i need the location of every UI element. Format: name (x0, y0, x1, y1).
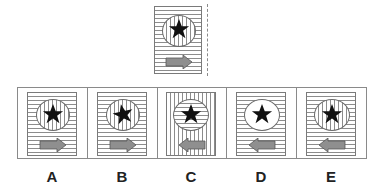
option-b-label[interactable]: B (112, 168, 132, 185)
arrow-right-icon (39, 138, 67, 152)
arrow-left-icon (318, 138, 346, 152)
option-e-label[interactable]: E (321, 168, 341, 185)
star-icon (110, 101, 136, 127)
star-icon (251, 103, 273, 125)
star-icon (321, 103, 343, 125)
option-d-figure[interactable] (236, 92, 286, 156)
star-icon (168, 18, 190, 40)
divider (157, 87, 158, 159)
arrow-right-icon (165, 55, 193, 69)
star-icon (180, 103, 202, 125)
option-c-label[interactable]: C (181, 168, 201, 185)
star-icon (42, 103, 64, 125)
option-a-label[interactable]: A (42, 168, 62, 185)
option-e-figure[interactable] (306, 92, 356, 156)
arrow-left-icon (248, 138, 276, 152)
divider (226, 87, 227, 159)
arrow-left-icon (178, 138, 206, 152)
option-c-figure[interactable] (166, 92, 216, 156)
divider (87, 87, 88, 159)
mirror-line (207, 4, 208, 76)
option-d-label[interactable]: D (251, 168, 271, 185)
option-a-figure[interactable] (27, 92, 77, 156)
option-b-figure[interactable] (97, 92, 147, 156)
question-figure (154, 6, 202, 74)
divider (296, 87, 297, 159)
arrow-right-icon (109, 138, 137, 152)
